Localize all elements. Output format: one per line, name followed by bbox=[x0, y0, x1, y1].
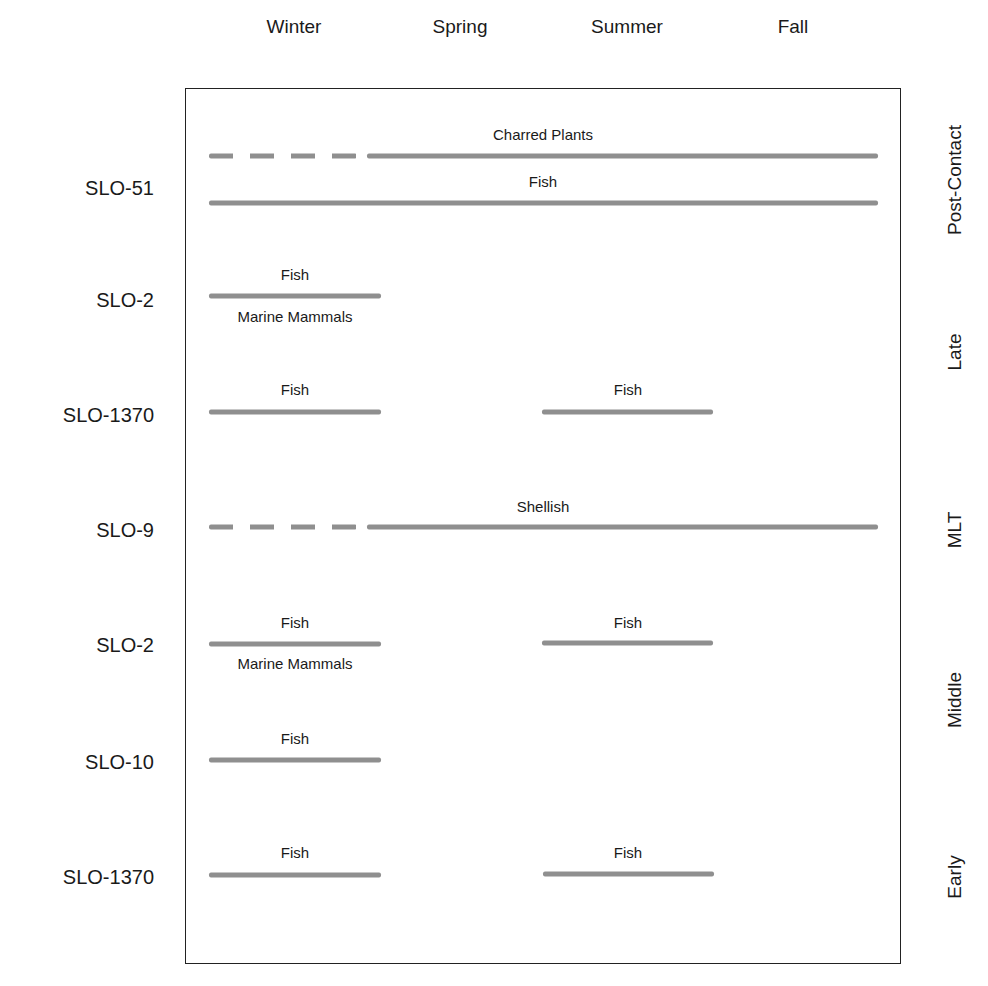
segment-label-fish: Fish bbox=[281, 614, 309, 631]
site-label-slo-2-middle: SLO-2 bbox=[96, 634, 154, 657]
segment-label-charred-plants: Charred Plants bbox=[493, 126, 593, 143]
segment-label-fish: Fish bbox=[281, 844, 309, 861]
solid-segment-fish-winter bbox=[209, 873, 381, 878]
solid-segment-shellish bbox=[367, 525, 878, 530]
site-label-slo-2-late: SLO-2 bbox=[96, 289, 154, 312]
site-label-slo-9: SLO-9 bbox=[96, 519, 154, 542]
solid-segment-fish-marine-mammals bbox=[209, 642, 381, 647]
segment-label-marine-mammals: Marine Mammals bbox=[237, 655, 352, 672]
period-label-mlt: MLT bbox=[944, 512, 966, 549]
site-label-slo-10: SLO-10 bbox=[85, 751, 154, 774]
solid-segment-fish-summer bbox=[542, 641, 713, 646]
segment-label-fish: Fish bbox=[281, 381, 309, 398]
season-header-fall: Fall bbox=[778, 16, 809, 38]
solid-segment-fish-marine-mammals bbox=[209, 294, 381, 299]
period-label-middle: Middle bbox=[944, 672, 966, 728]
season-header-spring: Spring bbox=[433, 16, 488, 38]
segment-label-fish: Fish bbox=[281, 730, 309, 747]
segment-label-fish: Fish bbox=[614, 381, 642, 398]
dashed-segment-shellish bbox=[209, 525, 357, 530]
period-label-late: Late bbox=[944, 334, 966, 371]
season-header-summer: Summer bbox=[591, 16, 663, 38]
segment-label-fish: Fish bbox=[281, 266, 309, 283]
period-label-post-contact: Post-Contact bbox=[944, 125, 966, 235]
segment-label-fish: Fish bbox=[614, 844, 642, 861]
segment-label-fish: Fish bbox=[614, 614, 642, 631]
dashed-segment-charred-plants bbox=[209, 154, 357, 159]
period-label-early: Early bbox=[944, 855, 966, 898]
season-header-winter: Winter bbox=[267, 16, 322, 38]
segment-label-fish: Fish bbox=[529, 173, 557, 190]
site-label-slo-51: SLO-51 bbox=[85, 177, 154, 200]
solid-segment-charred-plants bbox=[367, 154, 878, 159]
site-label-slo-1370-early: SLO-1370 bbox=[63, 866, 154, 889]
solid-segment-fish-winter bbox=[209, 410, 381, 415]
site-label-slo-1370-late: SLO-1370 bbox=[63, 404, 154, 427]
segment-label-shellish: Shellish bbox=[517, 498, 570, 515]
segment-label-marine-mammals: Marine Mammals bbox=[237, 308, 352, 325]
solid-segment-fish bbox=[209, 201, 878, 206]
solid-segment-fish-summer bbox=[543, 872, 714, 877]
solid-segment-fish-winter bbox=[209, 758, 381, 763]
solid-segment-fish-summer bbox=[542, 410, 713, 415]
